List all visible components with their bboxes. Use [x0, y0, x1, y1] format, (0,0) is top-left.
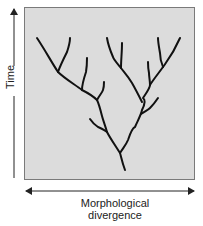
divergence-axis-label-line2: divergence: [88, 209, 142, 221]
time-axis: Time: [4, 9, 19, 178]
plot-panel: [25, 8, 195, 180]
right-clade-branch-a: [121, 43, 122, 68]
divergence-axis: Morphological divergence: [26, 191, 194, 221]
time-axis-label: Time: [4, 65, 16, 89]
divergence-axis-label-line1: Morphological: [81, 197, 149, 209]
phylogeny-diagram: Time Morphological divergence: [0, 0, 203, 226]
